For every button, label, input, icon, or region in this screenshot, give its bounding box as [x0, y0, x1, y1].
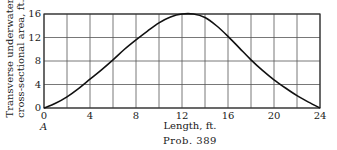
figure-caption: Prob. 389	[130, 135, 250, 146]
y-tick-label: 12	[21, 33, 41, 43]
x-tick-label: 20	[264, 111, 284, 121]
chart: Transverse underwater cross-sectional ar…	[0, 0, 337, 150]
x-axis-label: Length, ft.	[140, 120, 240, 131]
x-tick-label: 4	[80, 111, 100, 121]
y-tick-label: 8	[21, 56, 41, 66]
x-tick-label: 0	[34, 111, 54, 121]
y-tick-label: 4	[21, 80, 41, 90]
y-tick-label: 16	[21, 9, 41, 19]
point-a-label: A	[40, 121, 47, 132]
x-tick-label: 24	[310, 111, 330, 121]
y-axis-label-line1: Transverse underwater	[4, 0, 15, 118]
